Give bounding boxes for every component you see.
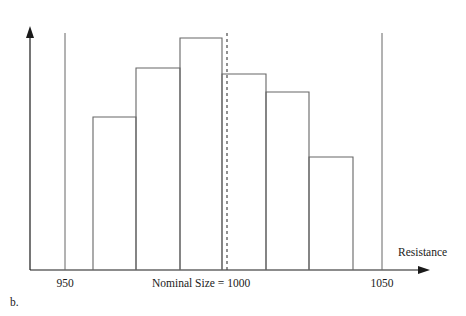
histogram-plot [0, 0, 466, 316]
histogram-figure: 950 1050 Nominal Size = 1000 Resistance … [0, 0, 466, 316]
histogram-bar [136, 68, 180, 270]
y-axis-arrowhead [26, 26, 34, 38]
histogram-bar [309, 157, 353, 270]
nominal-size-label: Nominal Size = 1000 [152, 277, 250, 289]
x-axis-title: Resistance [398, 246, 447, 258]
tick-label-950: 950 [45, 277, 85, 289]
x-axis-arrowhead [418, 266, 430, 274]
panel-letter-label: b. [10, 296, 19, 308]
histogram-bar [222, 74, 266, 270]
y-axis [26, 26, 34, 270]
histogram-bar [266, 92, 309, 270]
histogram-bar [93, 117, 136, 270]
histogram-bar [180, 38, 222, 270]
x-axis [30, 266, 430, 274]
histogram-bars [93, 38, 353, 270]
tick-label-1050: 1050 [362, 277, 402, 289]
